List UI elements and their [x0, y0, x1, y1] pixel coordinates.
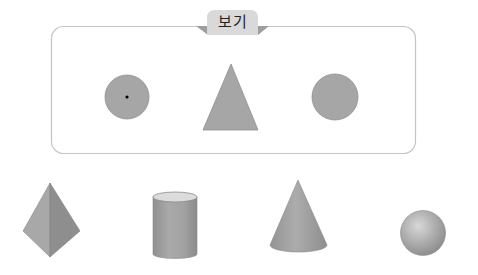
circle-icon: [312, 74, 358, 120]
example-tab-label: 보기: [207, 11, 259, 33]
circle-with-center-icon: [105, 75, 149, 119]
cone-icon: [270, 180, 327, 252]
diagram: 보기: [0, 0, 478, 275]
center-dot: [125, 95, 128, 98]
solids-row: [23, 180, 446, 259]
cylinder-icon: [153, 192, 197, 259]
diagram-canvas: [0, 0, 478, 275]
sphere-icon: [401, 211, 446, 256]
pyramid-icon: [23, 183, 80, 257]
